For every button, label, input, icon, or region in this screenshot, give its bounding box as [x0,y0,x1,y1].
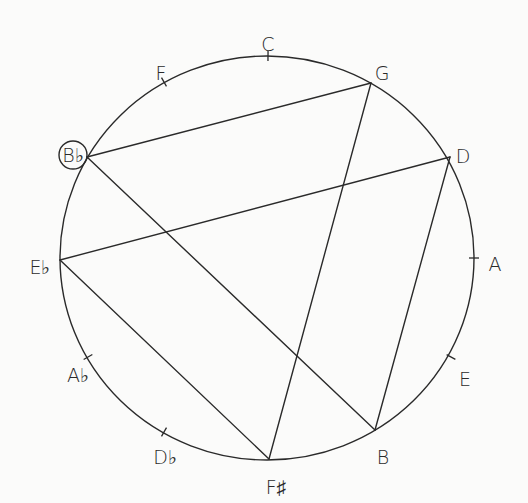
line-bb-b [87,157,375,430]
note-label-db: D♭ [153,446,177,468]
note-label-g: G [375,62,390,84]
note-label-f: F [156,62,167,84]
note-label-a: A [489,253,502,275]
note-label-eb: E♭ [29,256,50,278]
note-labels: CGDAEBF♯D♭A♭E♭B♭F [29,33,501,498]
connecting-lines [60,83,450,459]
note-label-c: C [261,33,274,55]
line-eb-fsharp [60,260,269,459]
note-label-d: D [456,145,471,167]
line-g-fsharp [269,83,371,459]
line-d-b [375,157,450,430]
circle-of-fifths-diagram: CGDAEBF♯D♭A♭E♭B♭F [0,0,528,503]
note-label-b: B [377,446,389,468]
line-eb-d [60,157,450,260]
outer-circle [60,56,474,460]
note-label-bb: B♭ [62,144,83,166]
note-label-e: E [459,368,471,390]
line-bb-g [87,83,371,157]
note-label-f-sharp: F♯ [266,476,286,498]
note-label-ab: A♭ [67,364,89,386]
tick-marks [84,51,479,436]
